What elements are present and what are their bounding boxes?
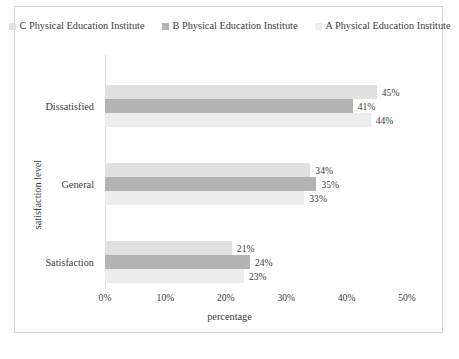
bar-row: 41% [105,99,407,113]
x-tick-label: 20% [217,292,235,303]
bar-value-label: 24% [255,257,273,268]
bar-value-label: 44% [376,115,394,126]
bar-row: 45% [105,85,407,99]
bar[interactable] [105,255,250,269]
legend-label-b: B Physical Education Institute [173,21,298,31]
bar[interactable] [105,163,310,177]
legend-label-a: A Physical Education Institute [326,21,451,31]
bar-row: 21% [105,241,407,255]
legend-label-c: C Physical Education Institute [20,21,145,31]
x-tick-label: 10% [157,292,175,303]
bar[interactable] [105,85,377,99]
bar-row: 35% [105,177,407,191]
legend-swatch-a [315,23,322,30]
bar-value-label: 45% [382,87,400,98]
bar-row: 34% [105,163,407,177]
bar-row: 44% [105,113,407,127]
legend-entry-c[interactable]: C Physical Education Institute [9,21,145,31]
y-axis-category-label: Satisfaction [45,257,94,268]
x-tick-label: 0% [99,292,112,303]
bar-row: 24% [105,255,407,269]
bar-value-label: 21% [237,243,255,254]
bar-value-label: 35% [321,179,339,190]
bar[interactable] [105,269,244,283]
x-tick-label: 40% [338,292,356,303]
y-axis-category-label: General [61,179,94,190]
chart-container: C Physical Education Institute B Physica… [14,6,443,333]
bar-group: Satisfaction21%24%23% [105,241,407,283]
legend-entry-b[interactable]: B Physical Education Institute [162,21,298,31]
legend-swatch-c [9,23,16,30]
bar-value-label: 34% [315,165,333,176]
y-axis-title: satisfaction level [32,125,43,265]
x-axis-title: percentage [15,311,444,322]
bar-value-label: 33% [309,193,327,204]
bar[interactable] [105,99,353,113]
legend-swatch-b [162,23,169,30]
y-axis-category-label: Dissatisfied [45,101,94,112]
bar[interactable] [105,241,232,255]
bar-group: Dissatisfied45%41%44% [105,85,407,127]
x-axis-tick-labels: 0%10%20%30%40%50% [105,292,407,306]
chart-legend: C Physical Education Institute B Physica… [15,21,444,31]
bar[interactable] [105,177,316,191]
bar-group: General34%35%33% [105,163,407,205]
bar-value-label: 23% [249,271,267,282]
plot-area: Dissatisfied45%41%44%General34%35%33%Sat… [105,55,407,289]
x-tick-label: 30% [277,292,295,303]
bar-value-label: 41% [358,101,376,112]
bar[interactable] [105,113,371,127]
x-tick-label: 50% [398,292,416,303]
bar-row: 23% [105,269,407,283]
legend-entry-a[interactable]: A Physical Education Institute [315,21,451,31]
bar[interactable] [105,191,304,205]
bar-row: 33% [105,191,407,205]
